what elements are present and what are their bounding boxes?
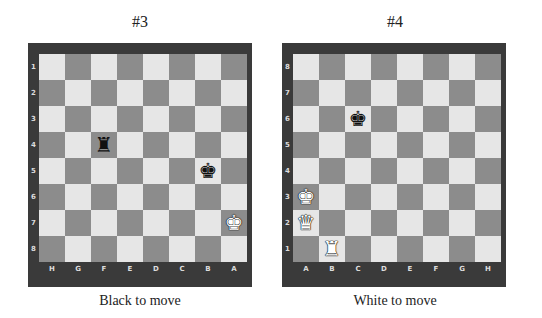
white-king-icon[interactable]: ♚ xyxy=(297,187,316,208)
square-c1[interactable] xyxy=(169,54,195,80)
square-f7[interactable] xyxy=(423,80,449,106)
square-a3[interactable]: ♚ xyxy=(293,184,319,210)
square-d6[interactable] xyxy=(371,106,397,132)
square-d3[interactable] xyxy=(143,106,169,132)
square-b5[interactable]: ♚ xyxy=(195,158,221,184)
square-e7[interactable] xyxy=(397,80,423,106)
black-king-icon[interactable]: ♚ xyxy=(199,161,218,182)
square-b8[interactable] xyxy=(319,54,345,80)
square-f6[interactable] xyxy=(91,184,117,210)
square-f4[interactable]: ♜ xyxy=(91,132,117,158)
square-c6[interactable] xyxy=(169,184,195,210)
square-d4[interactable] xyxy=(143,132,169,158)
square-c8[interactable] xyxy=(169,236,195,262)
square-f3[interactable] xyxy=(423,184,449,210)
square-d1[interactable] xyxy=(371,236,397,262)
square-g5[interactable] xyxy=(65,158,91,184)
square-e7[interactable] xyxy=(117,210,143,236)
square-h3[interactable] xyxy=(39,106,65,132)
square-c2[interactable] xyxy=(169,80,195,106)
square-a1[interactable] xyxy=(221,54,247,80)
square-e4[interactable] xyxy=(397,158,423,184)
square-g6[interactable] xyxy=(449,106,475,132)
square-a2[interactable] xyxy=(221,80,247,106)
square-a6[interactable] xyxy=(221,184,247,210)
square-a5[interactable] xyxy=(221,158,247,184)
square-h7[interactable] xyxy=(475,80,501,106)
square-b2[interactable] xyxy=(195,80,221,106)
square-h5[interactable] xyxy=(39,158,65,184)
square-f2[interactable] xyxy=(91,80,117,106)
square-g3[interactable] xyxy=(65,106,91,132)
square-a8[interactable] xyxy=(293,54,319,80)
square-f6[interactable] xyxy=(423,106,449,132)
square-c4[interactable] xyxy=(169,132,195,158)
square-e5[interactable] xyxy=(117,158,143,184)
square-d7[interactable] xyxy=(143,210,169,236)
square-b6[interactable] xyxy=(319,106,345,132)
square-d3[interactable] xyxy=(371,184,397,210)
square-f7[interactable] xyxy=(91,210,117,236)
square-g8[interactable] xyxy=(65,236,91,262)
square-g7[interactable] xyxy=(65,210,91,236)
square-e2[interactable] xyxy=(397,210,423,236)
square-c5[interactable] xyxy=(169,158,195,184)
square-b7[interactable] xyxy=(319,80,345,106)
square-b5[interactable] xyxy=(319,132,345,158)
square-c3[interactable] xyxy=(169,106,195,132)
square-e1[interactable] xyxy=(117,54,143,80)
square-g4[interactable] xyxy=(449,158,475,184)
square-d8[interactable] xyxy=(143,236,169,262)
square-a1[interactable] xyxy=(293,236,319,262)
square-b3[interactable] xyxy=(319,184,345,210)
square-c2[interactable] xyxy=(345,210,371,236)
square-a5[interactable] xyxy=(293,132,319,158)
square-d2[interactable] xyxy=(371,210,397,236)
square-a4[interactable] xyxy=(221,132,247,158)
square-h1[interactable] xyxy=(39,54,65,80)
square-d5[interactable] xyxy=(371,132,397,158)
square-h8[interactable] xyxy=(39,236,65,262)
white-queen-icon[interactable]: ♛ xyxy=(297,213,316,234)
square-g5[interactable] xyxy=(449,132,475,158)
square-e3[interactable] xyxy=(117,106,143,132)
square-e6[interactable] xyxy=(397,106,423,132)
square-c1[interactable] xyxy=(345,236,371,262)
square-c7[interactable] xyxy=(345,80,371,106)
square-g2[interactable] xyxy=(449,210,475,236)
square-b2[interactable] xyxy=(319,210,345,236)
square-c6[interactable]: ♚ xyxy=(345,106,371,132)
square-f5[interactable] xyxy=(423,132,449,158)
square-f8[interactable] xyxy=(91,236,117,262)
square-f2[interactable] xyxy=(423,210,449,236)
square-b7[interactable] xyxy=(195,210,221,236)
white-rook-icon[interactable]: ♜ xyxy=(323,239,342,260)
square-h4[interactable] xyxy=(475,158,501,184)
square-b1[interactable] xyxy=(195,54,221,80)
square-g3[interactable] xyxy=(449,184,475,210)
square-e3[interactable] xyxy=(397,184,423,210)
square-h1[interactable] xyxy=(475,236,501,262)
square-d2[interactable] xyxy=(143,80,169,106)
square-b4[interactable] xyxy=(319,158,345,184)
square-g7[interactable] xyxy=(449,80,475,106)
white-king-icon[interactable]: ♚ xyxy=(225,213,244,234)
square-e2[interactable] xyxy=(117,80,143,106)
square-a4[interactable] xyxy=(293,158,319,184)
square-d8[interactable] xyxy=(371,54,397,80)
square-c3[interactable] xyxy=(345,184,371,210)
square-b4[interactable] xyxy=(195,132,221,158)
square-e6[interactable] xyxy=(117,184,143,210)
square-a3[interactable] xyxy=(221,106,247,132)
square-a7[interactable]: ♚ xyxy=(221,210,247,236)
square-f1[interactable] xyxy=(423,236,449,262)
square-a2[interactable]: ♛ xyxy=(293,210,319,236)
square-d5[interactable] xyxy=(143,158,169,184)
square-g4[interactable] xyxy=(65,132,91,158)
square-h8[interactable] xyxy=(475,54,501,80)
square-e4[interactable] xyxy=(117,132,143,158)
square-g2[interactable] xyxy=(65,80,91,106)
square-d1[interactable] xyxy=(143,54,169,80)
square-d4[interactable] xyxy=(371,158,397,184)
square-d7[interactable] xyxy=(371,80,397,106)
